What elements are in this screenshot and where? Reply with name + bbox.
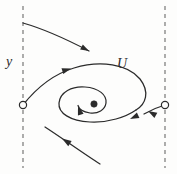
y-axis-label: y bbox=[6, 55, 12, 69]
trajectory-lower-incoming-orbit bbox=[45, 127, 100, 164]
trajectory-upper-incoming-orbit bbox=[23, 23, 89, 51]
unstable-manifold-label: U bbox=[117, 57, 127, 71]
fixed-point-spiral-center bbox=[91, 101, 97, 107]
arrowhead-upper-incoming-orbit bbox=[80, 44, 90, 53]
phase-portrait-canvas bbox=[0, 0, 177, 174]
phase-portrait-figure: y U bbox=[0, 0, 177, 174]
fixed-point-saddle-right bbox=[161, 101, 168, 108]
arrowhead-lower-incoming-orbit bbox=[60, 136, 71, 146]
trajectory-inner-spiral bbox=[59, 87, 136, 122]
fixed-point-saddle-left bbox=[19, 101, 26, 108]
